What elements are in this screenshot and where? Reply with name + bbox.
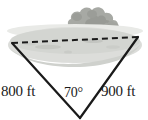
left-side-length-label: 800 ft <box>1 83 35 99</box>
lake-triangle-figure: 800 ft 900 ft 70° <box>0 0 148 120</box>
left-leg-line <box>12 43 80 118</box>
dashed-distance-line <box>12 37 138 43</box>
right-leg-line <box>80 37 138 118</box>
vertex-angle-label: 70° <box>64 85 83 101</box>
right-side-length-label: 900 ft <box>101 83 135 99</box>
triangle-layer <box>0 0 148 120</box>
